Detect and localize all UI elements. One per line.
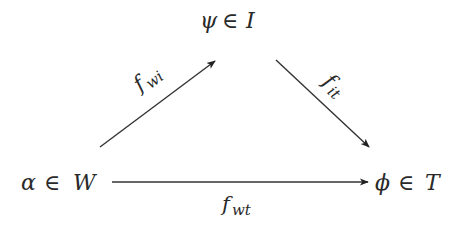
arrow-f-it — [276, 60, 369, 147]
node-top-var: ψ — [200, 8, 218, 33]
node-right-set: T — [425, 170, 442, 195]
label-f-it: f it — [315, 68, 351, 104]
node-left-set: W — [73, 170, 98, 195]
node-left: α ∈ W — [21, 170, 98, 195]
node-top-set: I — [245, 8, 256, 33]
node-left-rel: ∈ — [44, 170, 60, 195]
diagram-canvas: ψ ∈ I α ∈ W ϕ ∈ T f wi f — [0, 0, 464, 227]
edge-f-wt: f wt — [112, 182, 368, 219]
edge-f-it: f it — [276, 60, 369, 147]
diagram-svg: ψ ∈ I α ∈ W ϕ ∈ T f wi f — [0, 0, 464, 227]
label-f-wi: f wi — [127, 60, 167, 100]
node-right: ϕ ∈ T — [375, 170, 442, 195]
node-right-var: ϕ — [375, 170, 390, 195]
node-left-var: α — [21, 170, 36, 195]
node-right-rel: ∈ — [398, 170, 414, 195]
edge-f-wi: f wi — [100, 60, 215, 147]
node-top-rel: ∈ — [222, 8, 238, 33]
label-f-wt: f wt — [220, 192, 252, 219]
node-top: ψ ∈ I — [200, 8, 256, 33]
label-f-wt-sub: wt — [232, 201, 252, 219]
